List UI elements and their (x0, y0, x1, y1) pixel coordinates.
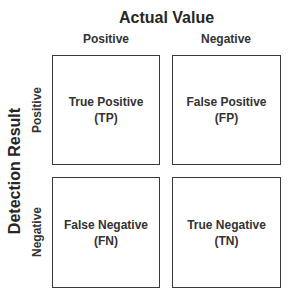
cell-name: True Negative (187, 217, 266, 233)
cell-name: False Positive (186, 94, 266, 110)
y-axis-title: Detection Result (6, 108, 24, 234)
x-axis-title: Actual Value (0, 9, 297, 27)
column-label-negative: Negative (172, 32, 280, 46)
cell-abbreviation: (FN) (94, 233, 118, 249)
cell-abbreviation: (FP) (215, 110, 238, 126)
row-label-positive: Positive (30, 87, 44, 133)
cell-name: True Positive (69, 94, 144, 110)
cell-false-negative: False Negative (FN) (52, 177, 160, 288)
cell-abbreviation: (TN) (215, 233, 239, 249)
cell-false-positive: False Positive (FP) (172, 55, 281, 165)
cell-name: False Negative (64, 217, 148, 233)
cell-abbreviation: (TP) (94, 110, 117, 126)
cell-true-positive: True Positive (TP) (52, 55, 160, 165)
row-label-negative: Negative (30, 207, 44, 257)
column-label-positive: Positive (52, 32, 160, 46)
cell-true-negative: True Negative (TN) (172, 177, 281, 288)
